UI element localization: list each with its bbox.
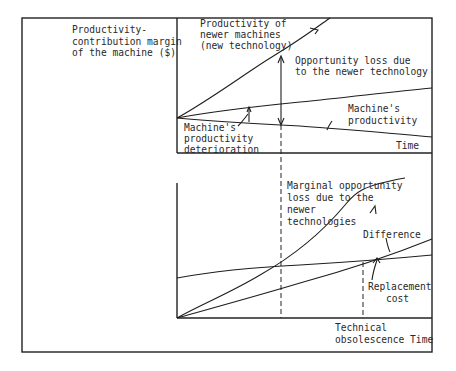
bottom-x-axis-label: Technical obsolescence Time [335, 322, 433, 345]
deterioration-label: Machine's productivity deterioration [184, 122, 259, 155]
y-axis-label: Productivity- contribution margin of the… [72, 24, 188, 58]
newer-machines-label: Productivity of newer machines (new tech… [200, 18, 292, 51]
replacement-cost-label: Replacement cost [368, 281, 437, 304]
replacement-cost-curve [177, 255, 432, 278]
obsolescence-diagram: Productivity- contribution margin of the… [0, 0, 456, 371]
machine-productivity-label: Machine's productivity [348, 103, 418, 126]
opportunity-loss-label: Opportunity loss due to the newer techno… [295, 55, 428, 77]
difference-pointer [386, 238, 390, 252]
marginal-loss-label: Marginal opportunity loss due to the new… [287, 180, 408, 227]
top-x-axis-label: Time [396, 140, 419, 151]
replacement-cost-pointer [372, 260, 377, 280]
difference-label: Difference [363, 229, 421, 240]
difference-curve [177, 239, 432, 318]
marginal-loss-pointer [370, 206, 376, 214]
